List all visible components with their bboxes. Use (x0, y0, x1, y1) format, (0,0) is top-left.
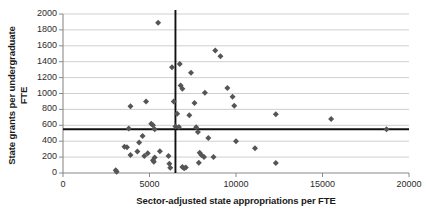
data-markers-group (113, 20, 390, 175)
y-tick-label: 0 (23, 167, 57, 177)
data-point-marker (140, 133, 146, 139)
data-point-marker (273, 160, 279, 166)
x-tick-label: 20000 (386, 179, 426, 189)
data-point-marker (252, 145, 258, 151)
data-point-marker (205, 135, 211, 141)
data-point-marker (169, 64, 175, 70)
data-point-marker (157, 148, 163, 154)
data-point-marker (328, 116, 334, 122)
y-tick-label: 2000 (23, 8, 57, 18)
data-point-marker (202, 90, 208, 96)
reference-lines-group (63, 10, 409, 173)
data-point-marker (231, 103, 237, 109)
y-tick-label: 1000 (23, 88, 57, 98)
data-point-marker (233, 138, 239, 144)
y-tick-label: 400 (23, 135, 57, 145)
data-point-marker (230, 94, 236, 100)
data-point-marker (143, 98, 149, 104)
data-point-marker (127, 103, 133, 109)
data-point-marker (211, 154, 217, 160)
data-point-marker (212, 48, 218, 54)
y-tick-label: 200 (23, 151, 57, 161)
data-point-marker (196, 160, 202, 166)
data-point-marker (134, 149, 140, 155)
x-tick-label: 15000 (300, 179, 346, 189)
x-axis-title: Sector-adjusted state appropriations per… (63, 195, 409, 206)
gridlines-group (63, 14, 409, 157)
data-point-marker (191, 100, 197, 106)
y-tick-label: 1800 (23, 24, 57, 34)
y-tick-label: 1600 (23, 40, 57, 50)
data-point-marker (126, 125, 132, 131)
y-tick-marks-group (59, 14, 63, 173)
data-point-marker (166, 153, 172, 159)
y-tick-label: 1400 (23, 56, 57, 66)
y-tick-label: 800 (23, 103, 57, 113)
x-tick-label: 10000 (213, 179, 259, 189)
x-tick-label: 5000 (127, 179, 173, 189)
data-point-marker (136, 139, 142, 145)
data-point-marker (155, 20, 161, 26)
data-point-marker (384, 126, 390, 132)
x-tick-marks-group (63, 173, 409, 177)
data-point-marker (273, 111, 279, 117)
data-point-marker (188, 70, 194, 76)
x-tick-label: 0 (40, 179, 86, 189)
data-point-marker (217, 53, 223, 59)
y-tick-label: 600 (23, 119, 57, 129)
y-tick-label: 1200 (23, 72, 57, 82)
data-point-marker (224, 85, 230, 91)
data-point-marker (167, 165, 173, 171)
data-point-marker (186, 112, 192, 118)
